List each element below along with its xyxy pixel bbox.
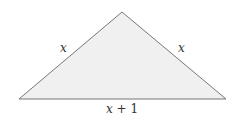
base-label: x + 1: [106, 102, 138, 116]
base-label-constant: + 1: [113, 102, 138, 116]
triangle: [19, 12, 226, 99]
right-side-label: x: [178, 41, 185, 55]
triangle-diagram: x x x + 1: [0, 0, 233, 117]
left-side-label: x: [60, 41, 67, 55]
